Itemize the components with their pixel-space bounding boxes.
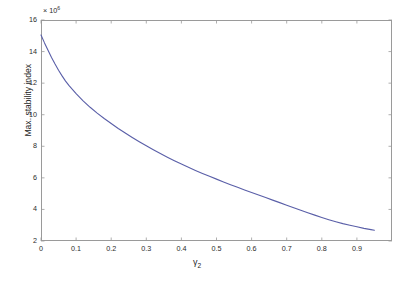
x-tick-label: 0.6: [240, 245, 264, 252]
x-tick-label: 0.9: [345, 245, 369, 252]
x-tick-label: 0.7: [275, 245, 299, 252]
data-series-line: [41, 35, 374, 230]
tick-marks: [41, 20, 392, 241]
y-tick-label: 6: [15, 174, 37, 181]
x-tick-label: 0: [29, 245, 53, 252]
y-tick-label: 16: [15, 16, 37, 23]
x-tick-label: 0.1: [64, 245, 88, 252]
x-tick-label: 0.2: [99, 245, 123, 252]
x-tick-label: 0.4: [169, 245, 193, 252]
y-tick-label: 2: [15, 237, 37, 244]
y-tick-label: 4: [15, 205, 37, 212]
y-tick-label: 14: [15, 48, 37, 55]
figure: × 106 Max. stability index γ2 2468101214…: [0, 0, 413, 288]
x-tick-label: 0.5: [205, 245, 229, 252]
x-tick-label: 0.3: [134, 245, 158, 252]
y-tick-label: 8: [15, 142, 37, 149]
y-tick-label: 12: [15, 79, 37, 86]
y-tick-label: 10: [15, 111, 37, 118]
x-tick-label: 0.8: [310, 245, 334, 252]
